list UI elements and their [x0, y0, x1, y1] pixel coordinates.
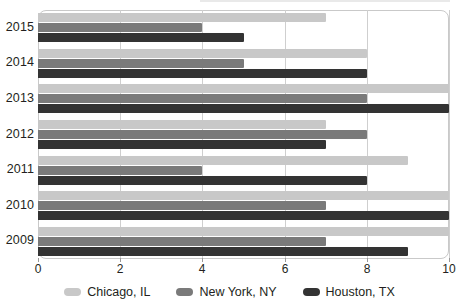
bar-houston-2012	[38, 140, 326, 149]
legend-swatch-icon	[64, 288, 81, 296]
bar-houston-2009	[38, 247, 408, 256]
bar-chart: 2015201420132012201120102009 0246810 Chi…	[0, 0, 459, 307]
y-axis-label-2011: 2011	[0, 162, 34, 176]
bar-chicago-2015	[38, 13, 326, 22]
x-axis-tick-labels: 0246810	[38, 262, 449, 278]
legend-label: Chicago, IL	[87, 285, 150, 299]
y-axis-label-2013: 2013	[0, 91, 34, 105]
legend-item-new-york[interactable]: New York, NY	[176, 285, 276, 299]
scan-artifact	[200, 0, 450, 2]
bar-new-york-2012	[38, 130, 367, 139]
bar-new-york-2015	[38, 23, 202, 32]
bars-layer	[38, 10, 449, 259]
bar-houston-2015	[38, 33, 244, 42]
legend-swatch-icon	[303, 288, 320, 296]
bar-new-york-2009	[38, 237, 326, 246]
bar-new-york-2011	[38, 166, 202, 175]
gridline-10	[449, 10, 450, 259]
bar-new-york-2014	[38, 59, 244, 68]
y-axis-label-2010: 2010	[0, 198, 34, 212]
y-axis-label-2015: 2015	[0, 20, 34, 34]
bar-chicago-2012	[38, 120, 326, 129]
legend-label: New York, NY	[199, 285, 276, 299]
x-axis-label-6: 6	[282, 262, 289, 276]
y-axis-category-labels: 2015201420132012201120102009	[0, 10, 34, 259]
bar-houston-2014	[38, 69, 367, 78]
bar-houston-2013	[38, 104, 449, 113]
legend-item-houston[interactable]: Houston, TX	[303, 285, 395, 299]
bar-new-york-2013	[38, 94, 367, 103]
bar-chicago-2013	[38, 84, 449, 93]
chart-legend: Chicago, ILNew York, NYHouston, TX	[0, 285, 459, 299]
legend-label: Houston, TX	[326, 285, 395, 299]
bar-chicago-2014	[38, 49, 367, 58]
x-axis-label-8: 8	[364, 262, 371, 276]
y-axis-label-2012: 2012	[0, 127, 34, 141]
bar-houston-2010	[38, 211, 449, 220]
bar-chicago-2009	[38, 227, 449, 236]
x-axis-label-4: 4	[199, 262, 206, 276]
bar-houston-2011	[38, 176, 367, 185]
x-axis-label-2: 2	[117, 262, 124, 276]
x-axis-label-10: 10	[442, 262, 455, 276]
bar-chicago-2010	[38, 191, 449, 200]
bar-new-york-2010	[38, 201, 326, 210]
x-axis-label-0: 0	[35, 262, 42, 276]
y-axis-label-2014: 2014	[0, 55, 34, 69]
legend-item-chicago[interactable]: Chicago, IL	[64, 285, 150, 299]
legend-swatch-icon	[176, 288, 193, 296]
bar-chicago-2011	[38, 156, 408, 165]
y-axis-label-2009: 2009	[0, 233, 34, 247]
